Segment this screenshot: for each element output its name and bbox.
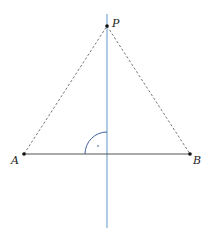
right-angle-arc <box>85 132 107 154</box>
perpendicular-bisector-diagram: P A B <box>0 0 214 235</box>
label-a: A <box>10 154 19 167</box>
label-p: P <box>111 17 120 30</box>
segment-ap-dashed <box>24 26 107 154</box>
label-b: B <box>192 154 201 167</box>
point-a <box>22 152 26 156</box>
segment-pb-dashed <box>107 26 190 154</box>
right-angle-dot <box>97 145 99 147</box>
point-p <box>105 24 109 28</box>
point-b <box>188 152 192 156</box>
